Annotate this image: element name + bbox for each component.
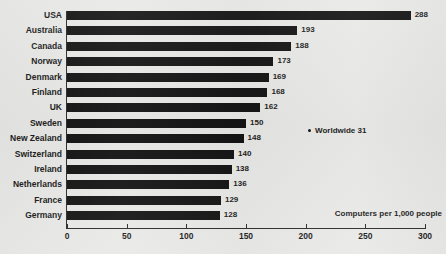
category-label-norway: Norway [0,56,62,66]
x-tick [127,224,128,229]
bar [67,88,267,97]
worldwide-dot-icon [308,129,311,132]
bar-value-label: 128 [224,209,237,220]
computers-per-1000-people-bar-chart: USAAustraliaCanadaNorwayDenmarkFinlandUK… [0,0,446,254]
x-tick [186,224,187,229]
bar-value-label: 148 [248,132,261,143]
bar [67,180,229,189]
category-label-denmark: Denmark [0,72,62,82]
x-tick [306,224,307,229]
bar [67,196,221,205]
bar [67,11,411,20]
x-tick-label: 300 [418,231,432,242]
bar-row: 173 [67,57,425,66]
bar-value-label: 173 [277,55,290,66]
category-label-netherlands: Netherlands [0,179,62,189]
bar [67,150,234,159]
bar [67,57,273,66]
category-label-germany: Germany [0,210,62,220]
worldwide-annotation-label: Worldwide 31 [315,126,366,135]
category-label-sweden: Sweden [0,118,62,128]
bar-value-label: 138 [236,163,249,174]
worldwide-annotation: Worldwide 31 [308,125,366,136]
bar-row: 129 [67,196,425,205]
bar-value-label: 188 [295,40,308,51]
bar-value-label: 288 [415,9,428,20]
category-label-australia: Australia [0,25,62,35]
x-tick-label: 250 [358,231,372,242]
plot-area: 2881931881731691681621501481401381361291… [67,11,425,228]
bar-row: 288 [67,11,425,20]
bar-value-label: 193 [301,24,314,35]
category-label-switzerland: Switzerland [0,149,62,159]
x-tick-label: 150 [239,231,253,242]
bar [67,165,232,174]
bar [67,42,291,51]
bar-row: 138 [67,165,425,174]
bar-value-label: 168 [271,86,284,97]
bar-value-label: 140 [238,148,251,159]
bar-row: 162 [67,103,425,112]
x-axis-caption: Computers per 1,000 people [335,208,442,219]
x-tick [365,224,366,229]
x-tick [246,224,247,229]
x-tick-label: 50 [122,231,131,242]
category-label-canada: Canada [0,41,62,51]
category-label-uk: UK [0,102,62,112]
category-label-new-zealand: New Zealand [0,133,62,143]
bar [67,119,246,128]
x-tick-label: 0 [65,231,70,242]
bar-value-label: 129 [225,194,238,205]
bar-row: 193 [67,26,425,35]
bar-row: 168 [67,88,425,97]
bar [67,103,260,112]
bar-value-label: 150 [250,117,263,128]
bar [67,73,269,82]
bar [67,211,220,220]
category-label-france: France [0,195,62,205]
category-label-usa: USA [0,10,62,20]
bar-row: 188 [67,42,425,51]
x-tick [425,224,426,229]
bar-row: 169 [67,73,425,82]
bar-row: 148 [67,134,425,143]
bar-row: 150 [67,119,425,128]
bar-value-label: 136 [233,178,246,189]
category-label-ireland: Ireland [0,164,62,174]
category-label-finland: Finland [0,87,62,97]
bar [67,26,297,35]
bar-value-label: 162 [264,101,277,112]
bar [67,134,244,143]
x-tick [67,224,68,229]
bar-row: 136 [67,180,425,189]
x-tick-label: 200 [299,231,313,242]
bar-value-label: 169 [273,71,286,82]
category-axis-labels: USAAustraliaCanadaNorwayDenmarkFinlandUK… [0,11,62,228]
bar-row: 140 [67,150,425,159]
x-tick-label: 100 [179,231,193,242]
